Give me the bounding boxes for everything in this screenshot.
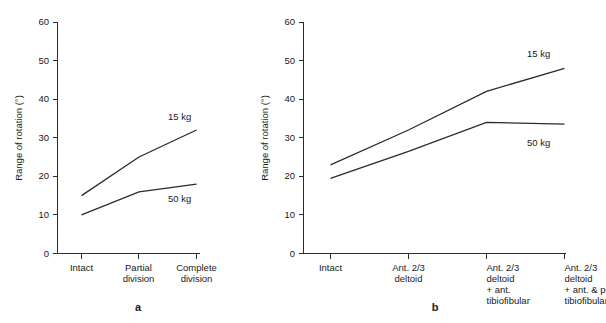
panel-b-ytick-label-0: 0 — [290, 248, 295, 259]
panel-b-ytick-label-50: 50 — [284, 55, 295, 66]
panel-b-xtick-label-0-line-0: Intact — [319, 262, 343, 273]
panel-b-letter: b — [432, 301, 439, 313]
panel-b-xtick-label-2-line-2: + ant. — [487, 284, 511, 295]
panel-b-series-label-50kg: 50 kg — [527, 137, 550, 148]
panel-b-xtick-label-2-line-3: tibiofibular — [487, 295, 530, 306]
panel-b-ytick-label-10: 10 — [284, 209, 295, 220]
panel-b-ytick-label-30: 30 — [284, 132, 295, 143]
panel-b-ytick-label-60: 60 — [284, 16, 295, 27]
panel-b-xtick-label-3-line-0: Ant. 2/3 — [565, 262, 598, 273]
panel-b-xtick-label-1-line-0: Ant. 2/3 — [392, 262, 425, 273]
panel-b-xtick-label-2-line-1: deltoid — [487, 273, 515, 284]
chart-panel-b: 0 10 20 30 40 50 60 Range of rotation (°… — [0, 0, 606, 323]
panel-b-y-ticks — [299, 22, 304, 254]
panel-b-xtick-label-3-line-2: + ant. & post. — [565, 284, 606, 295]
panel-b-series-15kg — [331, 68, 565, 165]
panel-b-xtick-label-3-line-1: deltoid — [565, 273, 593, 284]
panel-b-y-axis-title: Range of rotation (°) — [259, 95, 270, 181]
panel-b-ytick-label-40: 40 — [284, 93, 295, 104]
figure-container: 0 10 20 30 40 50 60 Range of rotation (°… — [0, 0, 606, 323]
panel-b-ytick-label-20: 20 — [284, 170, 295, 181]
panel-b-series-50kg — [331, 122, 565, 178]
panel-b-x-ticks — [331, 254, 565, 260]
panel-b-xtick-label-1-line-1: deltoid — [395, 273, 423, 284]
panel-b-xtick-label-3-line-3: tibiofibular — [565, 295, 606, 306]
panel-b-xtick-label-2-line-0: Ant. 2/3 — [487, 262, 520, 273]
panel-b-series-label-15kg: 15 kg — [527, 48, 550, 59]
